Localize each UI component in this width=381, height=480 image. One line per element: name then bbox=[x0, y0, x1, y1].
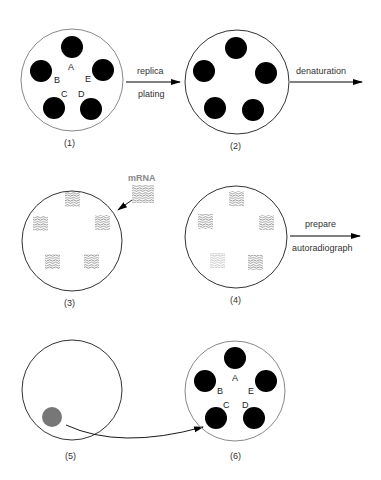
label-a: A bbox=[68, 62, 74, 72]
colony-e bbox=[92, 59, 114, 81]
label-b-6: B bbox=[217, 386, 223, 396]
dish-4: (4) bbox=[185, 186, 287, 305]
caption-2: (2) bbox=[230, 141, 241, 151]
diagram-canvas: A B E C D (1) replica plating (2) denatu… bbox=[0, 0, 381, 480]
label-c-6: C bbox=[223, 400, 230, 410]
label-c: C bbox=[61, 89, 68, 99]
caption-5: (5) bbox=[65, 451, 76, 461]
colony-b bbox=[30, 60, 52, 82]
mrna-probe bbox=[132, 185, 154, 203]
arrow-replica-plating: replica plating bbox=[126, 66, 180, 99]
replica-label: replica bbox=[137, 66, 164, 76]
denaturation-label: denaturation bbox=[296, 66, 346, 76]
dish-3: mRNA (3) bbox=[22, 173, 156, 308]
label-d: D bbox=[78, 89, 85, 99]
dish-6: A B E C D (6) bbox=[185, 341, 285, 461]
label-e: E bbox=[85, 74, 91, 84]
caption-4: (4) bbox=[230, 295, 241, 305]
caption-3: (3) bbox=[64, 298, 75, 308]
dish-1: A B E C D (1) bbox=[21, 29, 123, 148]
arrow-prepare-autoradiograph: prepare autoradiograph bbox=[290, 219, 360, 253]
colony-d bbox=[80, 98, 102, 120]
faint-patch-c bbox=[210, 253, 225, 268]
caption-1: (1) bbox=[64, 138, 75, 148]
prepare-label: prepare bbox=[305, 219, 336, 229]
colony-c bbox=[43, 97, 65, 119]
label-d-6: D bbox=[242, 400, 249, 410]
colony-a bbox=[61, 36, 83, 58]
autoradiograph-label: autoradiograph bbox=[292, 243, 353, 253]
mrna-label: mRNA bbox=[128, 173, 156, 183]
pick-colony-arrow bbox=[66, 425, 203, 438]
dish-2: (2) bbox=[185, 30, 289, 151]
dish-5: (5) bbox=[22, 340, 122, 461]
plating-label: plating bbox=[138, 89, 165, 99]
caption-6: (6) bbox=[230, 451, 241, 461]
positive-signal bbox=[42, 407, 62, 427]
label-b: B bbox=[54, 75, 60, 85]
label-e-6: E bbox=[248, 386, 254, 396]
label-a-6: A bbox=[232, 373, 238, 383]
arrow-denaturation: denaturation bbox=[290, 66, 362, 82]
